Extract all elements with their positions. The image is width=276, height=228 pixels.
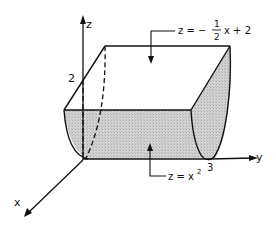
svg-text:z = −: z = − xyxy=(178,25,206,36)
svg-text:x + 2: x + 2 xyxy=(224,25,251,36)
svg-text:1: 1 xyxy=(214,19,220,29)
solid-region-diagram: z y x 2 3 z = − 1 2 x + 2 xyxy=(0,0,276,228)
svg-text:z = x: z = x xyxy=(168,171,194,182)
shaded-right-face xyxy=(191,46,230,159)
x-axis-arrow-icon xyxy=(24,208,32,217)
shaded-front-face xyxy=(64,110,208,159)
x-axis xyxy=(24,160,83,217)
top-leader-arrow-icon xyxy=(148,56,154,64)
top-surface-equation: z = − 1 2 x + 2 xyxy=(178,19,251,42)
z-axis-label: z xyxy=(86,18,92,31)
svg-text:2: 2 xyxy=(197,168,201,176)
y-intercept-label: 3 xyxy=(207,162,213,173)
top-surface-leader xyxy=(151,31,175,58)
y-axis-label: y xyxy=(256,151,263,164)
y-axis xyxy=(210,155,258,161)
x-axis-label: x xyxy=(14,196,21,209)
svg-text:2: 2 xyxy=(214,32,220,42)
bottom-surface-equation: z = x 2 xyxy=(168,168,201,182)
z-intercept-label: 2 xyxy=(68,72,75,85)
